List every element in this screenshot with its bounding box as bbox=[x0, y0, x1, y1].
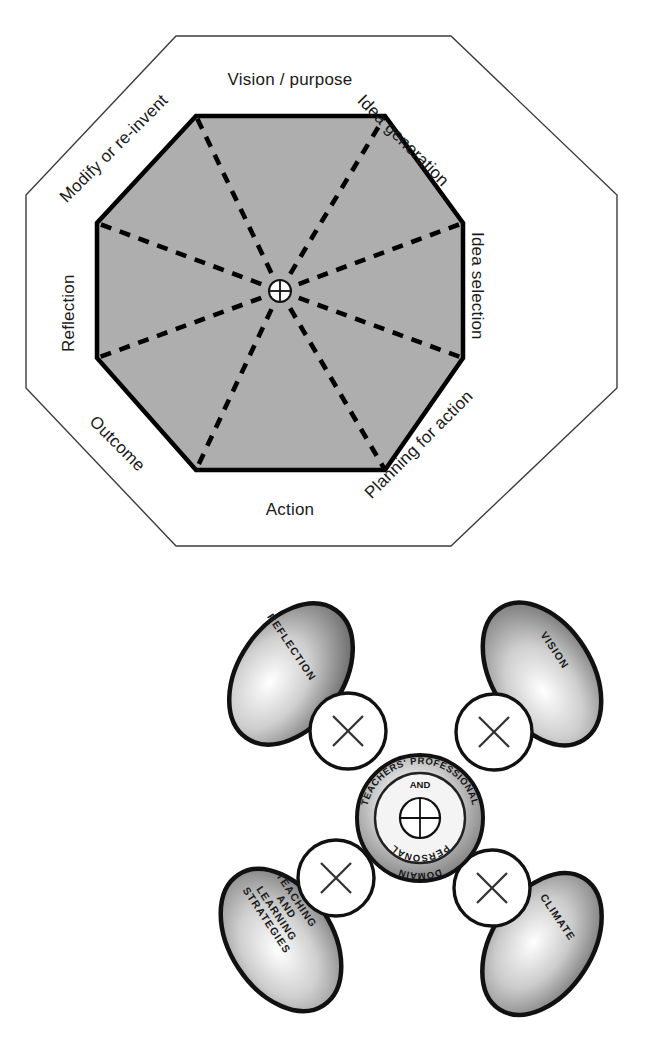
connector-reflection bbox=[310, 693, 386, 769]
page-root: Vision / purpose Idea generation Idea se… bbox=[0, 0, 657, 1043]
octagon-label-action: Action bbox=[200, 500, 380, 520]
domain-model-diagram: TEACHERS' PROFESSIONAL DOMAIN PERSONAL A… bbox=[0, 556, 657, 1043]
octagon-label-reflection: Reflection bbox=[59, 192, 79, 352]
creative-cycle-diagram: Vision / purpose Idea generation Idea se… bbox=[0, 0, 657, 560]
octagon-label-vision: Vision / purpose bbox=[200, 70, 380, 90]
center-crosshair-icon bbox=[269, 280, 291, 302]
connector-vision bbox=[456, 694, 532, 770]
connector-teaching bbox=[298, 840, 374, 916]
domain-model-svg: TEACHERS' PROFESSIONAL DOMAIN PERSONAL A… bbox=[0, 556, 657, 1043]
center-inner-top-text: AND bbox=[410, 779, 431, 790]
